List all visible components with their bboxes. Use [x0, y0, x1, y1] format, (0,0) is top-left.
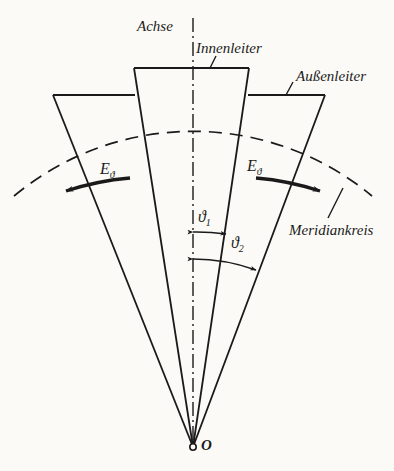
- field-left-symbol: E: [100, 160, 110, 177]
- field-right-symbol: E: [247, 157, 257, 174]
- field-vector-left: [66, 178, 130, 191]
- field-right-subscript: ϑ: [257, 166, 262, 177]
- leader-line-meridiankreis: [328, 188, 343, 218]
- field-vector-right: [256, 178, 320, 191]
- label-aussenleiter: Außenleiter: [296, 68, 366, 85]
- label-angle-theta2: ϑ2: [231, 234, 244, 254]
- theta1-subscript: 1: [206, 217, 211, 228]
- leader-line-aussenleiter: [286, 82, 293, 95]
- leader-line-innenleiter: [210, 56, 216, 68]
- theta2-symbol: ϑ: [231, 234, 239, 251]
- origin-point-marker: [190, 444, 196, 450]
- outer-conductor-right: [193, 95, 325, 447]
- field-left-subscript: ϑ: [110, 169, 115, 180]
- label-achse: Achse: [137, 18, 173, 35]
- angle-arc-theta2: [193, 259, 256, 270]
- diagram-canvas: Achse Innenleiter Außenleiter Meridiankr…: [0, 0, 394, 471]
- inner-conductor: [134, 68, 249, 447]
- label-field-e-theta-right: Eϑ: [247, 157, 262, 177]
- theta1-symbol: ϑ: [198, 208, 206, 225]
- label-origin-o: O: [201, 437, 212, 454]
- label-angle-theta1: ϑ1: [198, 208, 211, 228]
- label-field-e-theta-left: Eϑ: [100, 160, 115, 180]
- outer-conductor-left: [53, 95, 193, 447]
- angle-arc-theta1: [193, 232, 226, 234]
- label-meridiankreis: Meridiankreis: [289, 222, 373, 239]
- theta2-subscript: 2: [239, 243, 244, 254]
- label-innenleiter: Innenleiter: [196, 40, 262, 57]
